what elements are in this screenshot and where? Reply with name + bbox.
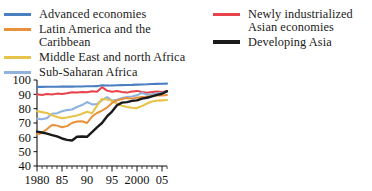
data-series-group: [37, 84, 167, 141]
y-axis-tick-label: 90: [19, 88, 31, 102]
legend-item[interactable]: Latin America and the Caribbean: [4, 23, 204, 49]
legend-item-label: Advanced economies: [39, 8, 146, 21]
x-axis-tick-label: 90: [81, 173, 93, 187]
y-axis-tick-label: 70: [19, 116, 31, 130]
legend-item[interactable]: Newly industrialized Asian economies: [213, 8, 372, 34]
y-axis-tick-label: 80: [19, 102, 31, 116]
y-axis-tick-label: 100: [12, 73, 31, 87]
x-axis-tick-label: 1980: [25, 173, 50, 187]
line-chart-svg: 405060708090100 1980859095200005: [0, 64, 372, 191]
data-series-line: [37, 99, 167, 118]
line-swatch-icon: [4, 13, 31, 16]
y-axis: 405060708090100: [12, 73, 37, 173]
legend-item-label: Latin America and the Caribbean: [39, 23, 204, 49]
x-axis-tick-label: 2000: [125, 173, 150, 187]
y-axis-tick-label: 50: [19, 145, 31, 159]
x-axis-tick-label: 95: [106, 173, 118, 187]
legend-item-label: Middle East and north Africa: [39, 51, 185, 64]
x-axis-tick-label: 85: [56, 173, 68, 187]
chart-plot-area: 405060708090100 1980859095200005: [0, 64, 372, 191]
legend-item-label: Developing Asia: [248, 36, 332, 49]
chart-page: Advanced economiesLatin America and the …: [0, 0, 372, 191]
line-swatch-icon: [4, 56, 31, 59]
legend-column-right: Newly industrialized Asian economiesDeve…: [213, 8, 372, 51]
line-swatch-icon: [213, 13, 240, 16]
legend-item[interactable]: Advanced economies: [4, 8, 204, 21]
line-swatch-icon: [213, 40, 240, 44]
x-axis-tick-label: 05: [156, 173, 168, 187]
line-swatch-icon: [4, 28, 31, 31]
y-axis-tick-label: 40: [19, 159, 31, 173]
x-axis: 1980859095200005: [25, 166, 169, 187]
chart-legend: Advanced economiesLatin America and the …: [0, 0, 372, 68]
legend-item-label: Newly industrialized Asian economies: [248, 8, 372, 34]
legend-item[interactable]: Developing Asia: [213, 36, 372, 49]
y-axis-tick-label: 60: [19, 131, 31, 145]
legend-item[interactable]: Middle East and north Africa: [4, 51, 204, 64]
